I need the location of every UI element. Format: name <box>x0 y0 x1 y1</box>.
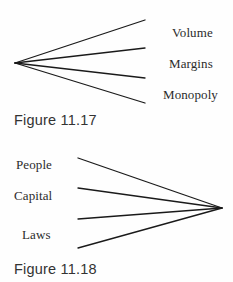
figure-11-18: People Capital Laws Figure 11.18 <box>0 141 233 282</box>
branch-label-volume: Volume <box>172 26 213 39</box>
branch-label-laws: Laws <box>22 228 51 241</box>
branch-label-capital: Capital <box>14 189 52 202</box>
branch-label-monopoly: Monopoly <box>163 88 218 101</box>
branch-label-margins: Margins <box>169 57 213 70</box>
figure-11-17: Volume Margins Monopoly Figure 11.17 <box>0 0 233 141</box>
figure-page: Volume Margins Monopoly Figure 11.17 Peo… <box>0 0 233 282</box>
fan-branch-1 <box>78 158 222 208</box>
fan-branch-1 <box>15 20 145 63</box>
branch-label-people: People <box>16 158 52 171</box>
figure-caption-11-18: Figure 11.18 <box>14 262 97 277</box>
fan-branch-3 <box>15 63 145 78</box>
fan-branch-4 <box>15 63 145 103</box>
fan-branch-2 <box>78 188 222 208</box>
figure-caption-11-17: Figure 11.17 <box>14 113 97 128</box>
fan-branch-2 <box>15 48 145 63</box>
